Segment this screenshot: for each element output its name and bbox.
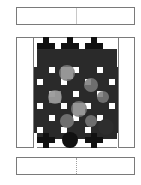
- game-board[interactable]: [33, 37, 119, 148]
- top-status-bar: [16, 7, 135, 25]
- bottom-status-bar: [16, 157, 135, 175]
- tile-pattern[interactable]: [34, 37, 119, 148]
- game-board-frame: [16, 37, 135, 148]
- top-bar-divider: [76, 8, 77, 24]
- bottom-bar-divider: [76, 158, 78, 174]
